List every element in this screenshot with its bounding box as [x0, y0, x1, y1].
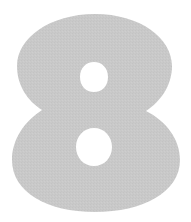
digit-eight-graphic: 8 — [0, 0, 191, 222]
eight-icon — [0, 0, 191, 222]
